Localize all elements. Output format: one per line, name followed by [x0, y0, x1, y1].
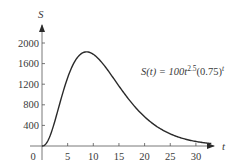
- y-tick-label: 1200: [18, 79, 39, 90]
- equation-exp2: t: [222, 64, 225, 73]
- y-ticks: 400800120016002000: [18, 38, 45, 131]
- equation-exp1: 2.5: [187, 64, 197, 73]
- x-tick-label: 10: [88, 151, 99, 162]
- equation-mid: (0.75): [197, 66, 223, 78]
- y-tick-label: 400: [23, 120, 39, 131]
- x-tick-label: 15: [114, 151, 125, 162]
- y-axis-label: S: [38, 8, 44, 20]
- y-tick-label: 800: [23, 99, 39, 110]
- chart: 51015202530 400800120016002000 0 t S S(t…: [0, 0, 235, 168]
- y-tick-label: 2000: [18, 38, 39, 49]
- x-tick-label: 25: [165, 151, 176, 162]
- equation-label: S(t) = 100t2.5(0.75)t: [141, 64, 225, 78]
- y-tick-label: 1600: [18, 58, 39, 69]
- x-tick-label: 30: [191, 151, 202, 162]
- equation-lhs: S(t) = 100t: [141, 66, 188, 78]
- origin-label: 0: [30, 151, 35, 162]
- x-axis-label: t: [222, 140, 226, 152]
- x-tick-label: 20: [139, 151, 150, 162]
- x-tick-label: 5: [65, 151, 70, 162]
